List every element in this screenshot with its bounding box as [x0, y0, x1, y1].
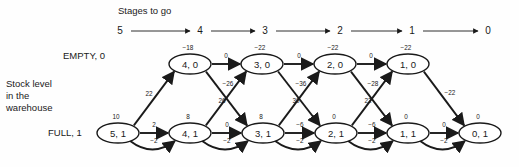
edge-label-bottom-curved-0: −2 [150, 137, 157, 145]
stage-tick-5: 5 [117, 25, 123, 37]
edge-label-up-0: 22 [145, 90, 152, 98]
node-label-41: 4, 1 [182, 128, 198, 140]
edge-label-down-3: −22 [445, 89, 456, 97]
stage-tick-1: 1 [409, 25, 415, 37]
edge-label-down-2: −28 [368, 80, 379, 88]
edge-down-10-01 [424, 72, 464, 126]
stage-tick-0: 0 [485, 25, 491, 37]
node-label-31: 3, 1 [255, 128, 271, 140]
edge-label-up-2: 30 [292, 97, 299, 105]
node-value-40: −18 [183, 44, 194, 52]
node-value-31: 8 [259, 113, 263, 121]
node-value-30: −22 [255, 44, 266, 52]
node-value-11: 0 [404, 113, 408, 121]
edge-label-bottom-straight-3: −6 [368, 121, 375, 129]
edge-label-bottom-curved-2: −2 [296, 137, 303, 145]
dynamic-programming-network-diagram: Stages to go EMPTY, 0 Stock level in the… [0, 0, 519, 167]
edge-label-up-3: 22 [364, 97, 371, 105]
edge-label-down-1: −36 [296, 80, 307, 88]
edge-label-top-2: 0 [369, 52, 373, 60]
edge-label-down-0: −26 [223, 80, 234, 88]
edge-label-bottom-straight-0: 2 [152, 121, 156, 129]
stock-level-caption-line2: in the [6, 90, 29, 102]
edge-label-top-0: 0 [224, 52, 228, 60]
stages-to-go-title: Stages to go [118, 5, 171, 17]
node-label-30: 3, 0 [254, 59, 270, 71]
node-label-11: 1, 1 [400, 128, 416, 140]
edge-label-bottom-straight-1: 0 [225, 121, 229, 129]
node-label-20: 2, 0 [327, 59, 343, 71]
node-label-51: 5, 1 [110, 128, 126, 140]
edge-label-bottom-straight-4: 0 [442, 121, 446, 129]
node-value-10: −22 [401, 44, 412, 52]
row-label-empty: EMPTY, 0 [63, 50, 105, 62]
node-label-10: 1, 0 [400, 59, 416, 71]
node-value-51: 10 [112, 113, 119, 121]
edge-label-top-1: 0 [297, 52, 301, 60]
node-label-01: 0, 1 [472, 128, 488, 140]
stock-level-caption-line1: Stock level [6, 78, 52, 90]
stock-level-caption-line3: warehouse [6, 102, 52, 114]
stage-tick-2: 2 [337, 25, 343, 37]
edge-up-51-40 [134, 72, 174, 126]
edge-label-bottom-straight-2: −6 [296, 121, 303, 129]
node-label-21: 2, 1 [328, 128, 344, 140]
edge-label-bottom-curved-3: −2 [368, 137, 375, 145]
edge-label-bottom-curved-4: −2 [440, 137, 447, 145]
node-label-40: 4, 0 [182, 59, 198, 71]
stage-tick-3: 3 [262, 25, 268, 37]
edge-label-bottom-curved-1: −2 [223, 137, 230, 145]
node-value-01: 0 [476, 113, 480, 121]
row-label-full: FULL, 1 [48, 127, 82, 139]
edge-label-up-1: 26 [218, 97, 225, 105]
node-value-41: 8 [186, 113, 190, 121]
node-value-21: 0 [332, 113, 336, 121]
node-value-20: −22 [328, 44, 339, 52]
stage-tick-4: 4 [197, 25, 203, 37]
